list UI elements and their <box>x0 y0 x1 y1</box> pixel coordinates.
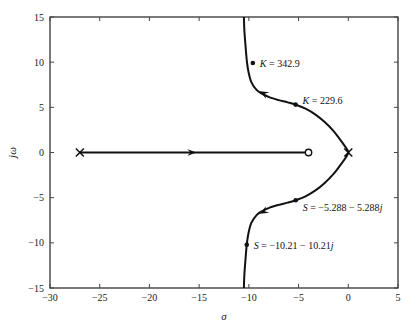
x-tick-label: −30 <box>42 292 58 303</box>
y-tick-label: −10 <box>28 237 44 248</box>
y-axis-title: jω <box>6 147 18 160</box>
label-value: = −5.288 − 5.288 <box>308 202 380 213</box>
x-tick-label: −25 <box>92 292 108 303</box>
y-tick-label: −15 <box>28 283 44 294</box>
y-tick-label: 10 <box>34 57 44 68</box>
chart-background <box>0 0 419 328</box>
gain-marker-upper <box>251 61 256 66</box>
root-marker-lower-outer <box>244 242 249 247</box>
label-value: = 342.9 <box>267 58 300 69</box>
y-tick-label: 0 <box>39 147 44 158</box>
x-tick-label: −10 <box>241 292 257 303</box>
label-value: = 229.6 <box>309 95 342 106</box>
gain-marker-upper-label: K = 342.9 <box>259 58 300 69</box>
x-axis-title: σ <box>221 310 227 322</box>
root-locus-chart: −30−25−20−15−10−505 −15−10−5051015 σ jω … <box>0 0 419 328</box>
label-value: = −10.21 − 10.21 <box>259 240 331 251</box>
y-tick-label: 5 <box>39 102 44 113</box>
x-tick-label: 0 <box>346 292 351 303</box>
gain-marker-mid-upper <box>293 102 298 107</box>
y-tick-label: 15 <box>34 12 44 23</box>
root-marker-lower-inner-label: S = −5.288 − 5.288j <box>303 202 383 213</box>
y-tick-label: −5 <box>33 192 44 203</box>
root-marker-lower-inner <box>293 198 298 203</box>
x-tick-label: −20 <box>142 292 158 303</box>
x-tick-label: −5 <box>293 292 304 303</box>
zero-markers <box>305 149 311 155</box>
gain-marker-mid-upper-label: K = 229.6 <box>302 95 343 106</box>
x-tick-label: 5 <box>396 292 401 303</box>
x-tick-label: −15 <box>191 292 207 303</box>
zero-real <box>305 149 311 155</box>
root-locus-figure: −30−25−20−15−10−505 −15−10−5051015 σ jω … <box>0 0 419 328</box>
root-marker-lower-outer-label: S = −10.21 − 10.21j <box>254 240 334 251</box>
